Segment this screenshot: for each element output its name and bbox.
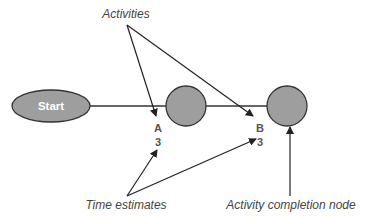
event-node-1 [166,86,206,126]
start-node: Start [12,90,90,122]
activity-a-label: A [154,122,162,134]
activity-b-time: 3 [257,136,263,148]
event-node-2 [267,86,307,126]
network-diagram: Start Activities A 3 B 3 Time estimates … [0,0,367,217]
start-label: Start [38,100,64,112]
activity-b-label: B [256,122,264,134]
activities-arrow-a [127,25,156,116]
time-arrow-b [127,139,256,196]
completion-node-annotation: Activity completion node [225,198,356,212]
time-estimates-annotation: Time estimates [85,198,166,212]
activities-annotation: Activities [101,7,149,21]
activity-a-time: 3 [155,136,161,148]
